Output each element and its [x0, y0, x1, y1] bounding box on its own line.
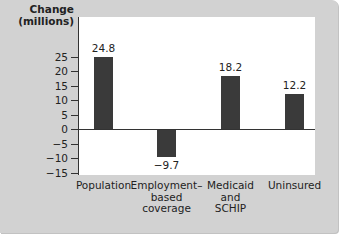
y-axis-line — [78, 17, 79, 175]
y-tick-label: 20 — [30, 66, 68, 76]
bar — [285, 94, 304, 129]
bar-value-label: 12.2 — [270, 80, 320, 91]
y-tick-mark — [71, 100, 78, 101]
y-tick-label: 0 — [30, 124, 68, 134]
zero-baseline — [79, 129, 315, 130]
y-tick-label: −10 — [30, 153, 68, 163]
y-tick-mark — [71, 158, 78, 159]
y-tick-label: 15 — [30, 81, 68, 91]
y-tick-mark — [71, 129, 78, 130]
y-axis-title: Change (millions) — [10, 3, 74, 27]
y-tick-mark — [71, 173, 78, 174]
y-axis-title-line-1: Change — [10, 3, 74, 15]
y-tick-label: −5 — [30, 139, 68, 149]
y-tick-mark — [71, 71, 78, 72]
category-label: Uninsured — [256, 180, 334, 192]
bar-value-label: 24.8 — [79, 43, 129, 54]
bar-value-label: −9.7 — [142, 160, 192, 171]
plot-area — [79, 17, 315, 175]
y-tick-label: 5 — [30, 110, 68, 120]
bar-value-label: 18.2 — [206, 62, 256, 73]
y-tick-label: 10 — [30, 95, 68, 105]
bar — [221, 76, 240, 129]
y-tick-mark — [71, 86, 78, 87]
y-tick-mark — [71, 115, 78, 116]
y-tick-mark — [71, 144, 78, 145]
bar — [157, 129, 176, 157]
y-tick-mark — [71, 57, 78, 58]
bar — [94, 57, 113, 129]
y-axis-title-line-2: (millions) — [10, 15, 74, 27]
y-tick-label: −15 — [30, 168, 68, 178]
y-tick-label: 25 — [30, 52, 68, 62]
